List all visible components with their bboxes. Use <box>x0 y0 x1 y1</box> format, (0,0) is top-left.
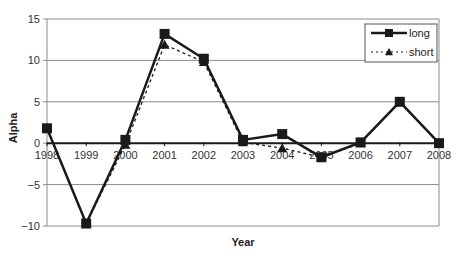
x-tick-label: 2001 <box>152 149 176 161</box>
y-tick-label: 0 <box>34 137 40 149</box>
x-tick-label: 2007 <box>388 149 412 161</box>
y-tick-label: 15 <box>28 13 40 25</box>
y-tick-label: −10 <box>21 220 40 232</box>
x-tick-label: 2003 <box>231 149 255 161</box>
y-tick-label: 10 <box>28 54 40 66</box>
square-marker <box>120 135 130 145</box>
y-tick-label: 5 <box>34 96 40 108</box>
x-tick-label: 2002 <box>192 149 216 161</box>
legend-label-long: long <box>409 27 430 39</box>
square-marker <box>42 123 52 133</box>
y-axis-title: Alpha <box>7 112 19 143</box>
triangle-marker <box>277 143 287 152</box>
square-marker <box>160 29 170 39</box>
square-marker <box>81 219 91 229</box>
square-marker <box>277 129 287 139</box>
y-tick-label: −5 <box>27 179 40 191</box>
square-marker <box>316 152 326 162</box>
square-marker <box>356 137 366 147</box>
legend-label-short: short <box>409 46 433 58</box>
line-chart: −10−5051015 1998199920002001200220032004… <box>0 0 462 260</box>
x-tick-label: 2006 <box>348 149 372 161</box>
x-axis-title: Year <box>231 236 255 248</box>
square-marker <box>238 135 248 145</box>
square-marker <box>434 138 444 148</box>
y-axis-ticks: −10−5051015 <box>21 13 47 232</box>
square-marker <box>395 97 405 107</box>
x-tick-label: 1999 <box>74 149 98 161</box>
square-marker <box>199 54 209 64</box>
square-marker <box>385 29 393 37</box>
series-short <box>42 40 444 228</box>
x-tick-label: 2008 <box>427 149 451 161</box>
legend: longshort <box>365 24 437 62</box>
short-line <box>47 45 439 224</box>
